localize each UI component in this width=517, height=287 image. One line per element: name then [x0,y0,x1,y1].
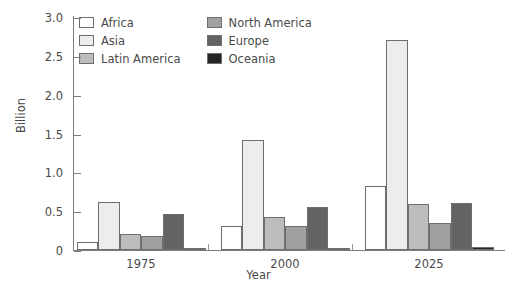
x-axis-group-separator [208,244,209,250]
bar-asia-2025 [386,40,408,250]
bar-oceania-2025 [472,247,494,250]
bar-asia-2000 [242,140,264,250]
bar-oceania-2000 [328,248,350,250]
y-tick-label: 0 [56,244,63,258]
x-axis-group-label: 1975 [126,257,155,271]
bar-latin-america-2000 [264,217,286,250]
bar-north-america-2025 [429,223,451,250]
y-tick-label: 3.0 [45,11,63,25]
bar-europe-2025 [451,203,473,250]
bar-europe-1975 [163,214,185,251]
plot-area [73,17,505,250]
x-axis-group-label: 2000 [270,257,299,271]
bar-latin-america-1975 [120,234,142,250]
y-tick-label: 1.5 [45,128,63,142]
bar-north-america-2000 [285,226,307,250]
bar-asia-1975 [98,202,120,250]
y-tick-label: 1.0 [45,166,63,180]
bar-chart-figure: AfricaNorth AmericaAsiaEuropeLatin Ameri… [0,0,517,287]
y-tick-label: 2.5 [45,50,63,64]
bar-oceania-1975 [184,248,206,250]
bar-latin-america-2025 [408,204,430,250]
y-axis-title: Billion [14,98,28,133]
x-axis-line [73,250,505,251]
y-tick-label: 0.5 [45,205,63,219]
bar-africa-2025 [365,186,387,250]
y-tick-label: 2.0 [45,89,63,103]
bar-north-america-1975 [141,236,163,250]
x-axis-group-separator [352,244,353,250]
bar-europe-2000 [307,207,329,250]
bar-africa-2000 [221,226,243,250]
x-axis-group-label: 2025 [414,257,443,271]
y-tick-mark [74,251,81,252]
bar-africa-1975 [77,242,99,250]
